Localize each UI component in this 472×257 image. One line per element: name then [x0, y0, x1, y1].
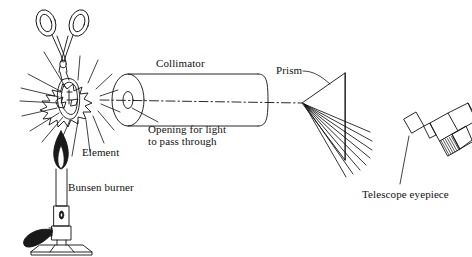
element-sample-icon: [40, 84, 92, 127]
light-rays-icon: [20, 52, 120, 156]
label-element: Element: [82, 146, 119, 158]
label-opening-for-light: Opening for lightto pass through: [148, 123, 226, 147]
optical-axis-line: [100, 100, 302, 103]
label-bunsen-burner: Bunsen burner: [68, 181, 134, 193]
label-prism: Prism: [276, 64, 302, 76]
dispersed-spectrum-icon: [304, 104, 372, 177]
label-collimator: Collimator: [156, 57, 205, 69]
prism-icon: [302, 73, 345, 160]
telescope-eyepiece-icon: [404, 103, 472, 156]
label-opening-line2: to pass through: [148, 135, 217, 147]
label-opening-line1: Opening for light: [148, 123, 226, 135]
telescope-leader-line: [400, 136, 409, 184]
spectroscope-diagram: Collimator Prism Opening for lightto pas…: [0, 0, 472, 257]
prism-leader-line: [303, 71, 330, 84]
opening-leader-line: [132, 108, 158, 122]
diagram-canvas: [0, 0, 472, 257]
collimator-icon: [112, 74, 268, 126]
label-telescope-eyepiece: Telescope eyepiece: [362, 188, 449, 200]
